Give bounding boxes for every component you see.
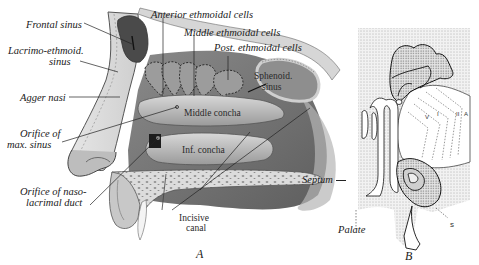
label-orifice-nasolacrimal-line2: lacrimal duct xyxy=(26,197,82,208)
label-anterior-ethmoidal-cells: Anterior ethmoidal cells xyxy=(151,9,253,20)
label-middle-concha: Middle concha xyxy=(184,108,241,118)
label-ii: II xyxy=(456,111,459,117)
label-a: A xyxy=(464,111,468,117)
label-septum: Septum xyxy=(302,174,333,185)
label-incisive-canal-line1: Incisive xyxy=(179,213,209,223)
label-orifice-max-sinus-line2: max. sinus xyxy=(7,139,51,150)
label-orifice-nasolacrimal-line1: Orifice of naso- xyxy=(20,186,87,197)
label-sphenoid-sinus-line2: sinus xyxy=(262,82,282,92)
label-s: s xyxy=(450,220,454,229)
label-i: I xyxy=(437,111,439,117)
label-inf-concha: Inf. concha xyxy=(182,145,225,155)
figure-a-caption: A xyxy=(196,247,203,262)
label-lacrimo-ethmoid-sinus-line1: Lacrimo-ethmoid. xyxy=(8,45,84,56)
label-post-ethmoidal-cells: Post. ethmoidal cells xyxy=(214,42,302,53)
label-agger-nasi: Agger nasi xyxy=(20,92,66,103)
label-sphenoid-sinus-line1: Sphenoid. xyxy=(254,71,292,81)
figure-b-caption: B xyxy=(405,249,412,264)
figure-a-nasal-cavity-illustration xyxy=(0,0,479,265)
label-frontal-sinus: Frontal sinus xyxy=(26,19,82,30)
label-orifice-max-sinus-line1: Orifice of xyxy=(20,128,61,139)
septum-leader-line xyxy=(336,180,346,181)
figure-b-schematic xyxy=(356,28,470,250)
label-lacrimo-ethmoid-sinus-line2: sinus xyxy=(49,56,71,67)
label-incisive-canal-line2: canal xyxy=(186,223,206,233)
label-middle-ethmoidal-cells: Middle ethmoidal cells xyxy=(184,27,280,38)
label-palate: Palate xyxy=(338,224,365,235)
label-v: V xyxy=(425,114,429,120)
